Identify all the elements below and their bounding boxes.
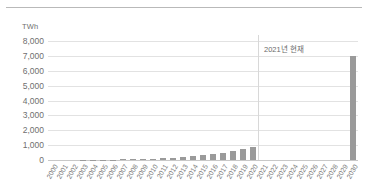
y-axis-tick-label: 1,000 (23, 140, 44, 150)
bar-slot (118, 41, 128, 160)
bar-slot (58, 41, 68, 160)
bar-slot (48, 41, 58, 160)
x-tick-slot: 2009 (138, 161, 148, 196)
bar-series (48, 41, 358, 160)
bar (180, 157, 186, 160)
x-tick-slot: 2015 (198, 161, 208, 196)
x-tick-slot: 2024 (288, 161, 298, 196)
now-annotation-label: 2021년 현재 (264, 43, 304, 54)
y-axis-tick-label: 0 (39, 155, 44, 165)
x-axis-tick-label: 2030 (345, 163, 359, 180)
bar (210, 154, 216, 160)
x-tick-slot: 2030 (348, 161, 358, 196)
bar-slot (288, 41, 298, 160)
x-tick-slot: 2018 (228, 161, 238, 196)
bar-slot (318, 41, 328, 160)
bar (130, 159, 136, 160)
bar (200, 155, 206, 160)
x-tick-slot: 2027 (318, 161, 328, 196)
bar-slot (238, 41, 248, 160)
bar (230, 151, 236, 160)
bar-slot (328, 41, 338, 160)
y-axis-tick-label: 8,000 (23, 36, 44, 46)
bar (220, 153, 226, 160)
bar (350, 56, 356, 160)
x-tick-slot: 2007 (118, 161, 128, 196)
plot-area: 8,0007,0006,0005,0004,0003,0002,0001,000… (48, 41, 358, 160)
x-axis-tick-labels: 2000200120022003200420052006200720082009… (48, 161, 358, 196)
x-tick-slot: 2020 (248, 161, 258, 196)
bar (140, 159, 146, 160)
bar-slot (128, 41, 138, 160)
bar-slot (88, 41, 98, 160)
bar-slot (208, 41, 218, 160)
bar (240, 149, 246, 160)
x-tick-slot: 2025 (298, 161, 308, 196)
y-axis-tick-label: 3,000 (23, 110, 44, 120)
chart-figure: TWh 8,0007,0006,0005,0004,0003,0002,0001… (0, 0, 368, 196)
x-tick-slot: 2008 (128, 161, 138, 196)
bar (120, 159, 126, 160)
bar-slot (108, 41, 118, 160)
x-tick-slot: 2003 (78, 161, 88, 196)
bar-slot (148, 41, 158, 160)
bar-slot (138, 41, 148, 160)
bar-slot (308, 41, 318, 160)
bar-slot (268, 41, 278, 160)
bar-slot (298, 41, 308, 160)
bar (170, 158, 176, 160)
bar-slot (158, 41, 168, 160)
x-tick-slot: 2021 (258, 161, 268, 196)
bar-slot (78, 41, 88, 160)
y-axis-tick-label: 4,000 (23, 96, 44, 106)
x-tick-slot: 2004 (88, 161, 98, 196)
x-tick-slot: 2006 (108, 161, 118, 196)
x-tick-slot: 2011 (158, 161, 168, 196)
x-tick-slot: 2010 (148, 161, 158, 196)
y-axis-tick-label: 7,000 (23, 51, 44, 61)
bar-slot (168, 41, 178, 160)
top-divider-rule (6, 7, 362, 8)
x-tick-slot: 2022 (268, 161, 278, 196)
x-tick-slot: 2001 (58, 161, 68, 196)
x-tick-slot: 2002 (68, 161, 78, 196)
x-tick-slot: 2029 (338, 161, 348, 196)
bar-slot (228, 41, 238, 160)
bar-slot (248, 41, 258, 160)
bar (150, 159, 156, 160)
bar-slot (218, 41, 228, 160)
bar (190, 156, 196, 160)
bar (160, 158, 166, 160)
x-tick-slot: 2014 (188, 161, 198, 196)
bar-slot (68, 41, 78, 160)
y-axis-tick-label: 2,000 (23, 125, 44, 135)
x-tick-slot: 2012 (168, 161, 178, 196)
x-tick-slot: 2013 (178, 161, 188, 196)
bar-slot (338, 41, 348, 160)
bar-slot (98, 41, 108, 160)
y-axis-tick-label: 5,000 (23, 81, 44, 91)
x-tick-slot: 2016 (208, 161, 218, 196)
bar-slot (198, 41, 208, 160)
bar-slot (258, 41, 268, 160)
y-axis-tick-label: 6,000 (23, 66, 44, 76)
x-tick-slot: 2026 (308, 161, 318, 196)
x-tick-slot: 2019 (238, 161, 248, 196)
x-tick-slot: 2017 (218, 161, 228, 196)
bar-slot (178, 41, 188, 160)
y-axis-unit-label: TWh (22, 22, 38, 31)
x-tick-slot: 2028 (328, 161, 338, 196)
bar (250, 147, 256, 160)
x-tick-slot: 2005 (98, 161, 108, 196)
bar-slot (278, 41, 288, 160)
bar-slot (348, 41, 358, 160)
x-tick-slot: 2023 (278, 161, 288, 196)
x-tick-slot: 2000 (48, 161, 58, 196)
now-divider-line (258, 35, 259, 160)
bar-slot (188, 41, 198, 160)
